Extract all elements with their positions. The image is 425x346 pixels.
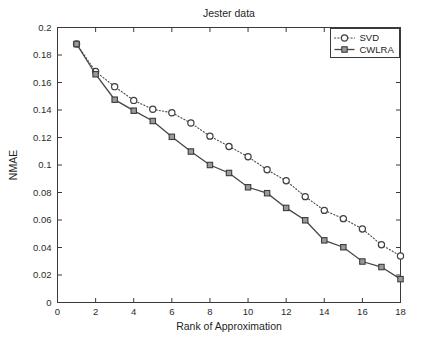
datapoint-cwlra <box>264 190 269 195</box>
datapoint-cwlra <box>150 118 155 123</box>
datapoint-svd <box>207 133 213 139</box>
datapoint-cwlra <box>112 97 117 102</box>
datapoint-svd <box>378 242 384 248</box>
y-ticklabel: 0.1 <box>38 159 51 170</box>
datapoint-cwlra <box>360 259 365 264</box>
datapoint-cwlra <box>207 162 212 167</box>
x-ticklabel: 18 <box>395 306 406 317</box>
x-ticklabel: 2 <box>93 306 98 317</box>
x-ticklabel: 16 <box>357 306 368 317</box>
datapoint-svd <box>169 110 175 116</box>
legend-marker-cwlra <box>342 47 347 52</box>
y-ticklabel: 0.08 <box>33 187 52 198</box>
datapoint-cwlra <box>341 245 346 250</box>
figure-canvas: 00.020.040.060.080.10.120.140.160.180.20… <box>0 0 425 346</box>
series-line-cwlra <box>77 44 401 279</box>
datapoint-svd <box>150 106 156 112</box>
datapoint-svd <box>321 207 327 213</box>
datapoint-svd <box>359 226 365 232</box>
chart-title: Jester data <box>203 7 255 19</box>
datapoint-svd <box>245 154 251 160</box>
y-ticklabel: 0.04 <box>33 242 52 253</box>
datapoint-cwlra <box>131 108 136 113</box>
chart-plot: 00.020.040.060.080.10.120.140.160.180.20… <box>0 0 425 346</box>
y-ticklabel: 0.06 <box>33 214 52 225</box>
datapoint-svd <box>226 143 232 149</box>
y-axis-title: NMAE <box>7 150 19 180</box>
datapoint-svd <box>283 178 289 184</box>
datapoint-cwlra <box>188 149 193 154</box>
x-ticklabel: 12 <box>281 306 292 317</box>
x-ticklabel: 10 <box>243 306 254 317</box>
datapoint-cwlra <box>398 276 403 281</box>
datapoint-cwlra <box>93 72 98 77</box>
legend-label-svd: SVD <box>360 32 380 43</box>
datapoint-svd <box>131 97 137 103</box>
datapoint-cwlra <box>283 205 288 210</box>
x-ticklabel: 14 <box>319 306 330 317</box>
legend-label-cwlra: CWLRA <box>360 44 395 55</box>
datapoint-cwlra <box>169 134 174 139</box>
datapoint-cwlra <box>245 185 250 190</box>
y-ticklabel: 0.12 <box>33 132 52 143</box>
x-ticklabel: 0 <box>55 306 60 317</box>
x-axis-title: Rank of Approximation <box>176 320 282 332</box>
y-ticklabel: 0 <box>46 297 51 308</box>
y-ticklabel: 0.18 <box>33 49 52 60</box>
y-ticklabel: 0.16 <box>33 77 52 88</box>
datapoint-svd <box>397 253 403 259</box>
datapoint-svd <box>112 84 118 90</box>
x-ticklabel: 8 <box>207 306 212 317</box>
datapoint-cwlra <box>379 264 384 269</box>
datapoint-cwlra <box>322 238 327 243</box>
x-ticklabel: 6 <box>169 306 174 317</box>
y-ticklabel: 0.02 <box>33 269 52 280</box>
datapoint-cwlra <box>303 218 308 223</box>
datapoint-cwlra <box>226 170 231 175</box>
y-ticklabel: 0.2 <box>38 22 51 33</box>
datapoint-svd <box>264 167 270 173</box>
legend-marker-svd <box>341 35 347 41</box>
y-ticklabel: 0.14 <box>33 104 52 115</box>
datapoint-svd <box>302 194 308 200</box>
plot-frame <box>58 28 401 303</box>
datapoint-svd <box>188 120 194 126</box>
series-line-svd <box>77 44 401 256</box>
x-ticklabel: 4 <box>131 306 136 317</box>
datapoint-cwlra <box>74 41 79 46</box>
datapoint-svd <box>340 216 346 222</box>
